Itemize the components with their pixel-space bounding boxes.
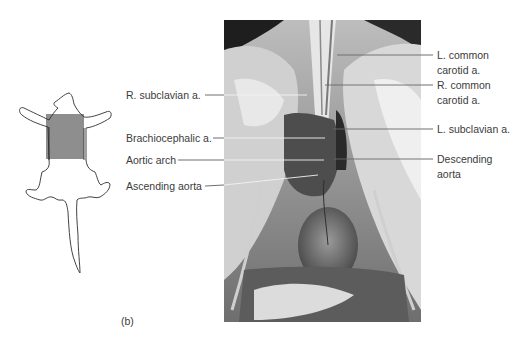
label-r-common-carotid: R. common carotid a. bbox=[437, 78, 491, 107]
label-l-subclavian: L. subclavian a. bbox=[437, 122, 510, 137]
label-l-subclavian-line1: L. subclavian a. bbox=[437, 122, 510, 137]
label-r-subclavian: R. subclavian a. bbox=[126, 88, 201, 103]
label-l-common-carotid-line2: carotid a. bbox=[437, 63, 489, 78]
label-r-common-carotid-line1: R. common bbox=[437, 78, 491, 93]
label-brachiocephalic: Brachiocephalic a. bbox=[126, 131, 212, 146]
label-descending-aorta: Descending aorta bbox=[437, 152, 492, 181]
label-aortic-arch: Aortic arch bbox=[126, 153, 176, 168]
label-ascending-aorta: Ascending aorta bbox=[126, 179, 202, 194]
label-l-common-carotid-line1: L. common bbox=[437, 48, 489, 63]
label-descending-aorta-line2: aorta bbox=[437, 167, 492, 182]
label-descending-aorta-line1: Descending bbox=[437, 152, 492, 167]
leader-ascending-aorta bbox=[205, 185, 224, 186]
label-l-common-carotid: L. common carotid a. bbox=[437, 48, 489, 77]
label-r-common-carotid-line2: carotid a. bbox=[437, 93, 491, 108]
